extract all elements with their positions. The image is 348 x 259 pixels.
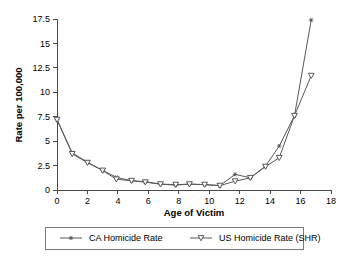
y-tick-label: 2.5 <box>37 161 50 171</box>
x-tick-label: 10 <box>204 196 214 206</box>
x-tick-label: 8 <box>176 196 181 206</box>
legend-label: CA Homicide Rate <box>89 233 163 243</box>
x-tick-label: 2 <box>85 196 90 206</box>
homicide-rate-chart-figure: Rate per 100,000 02.557.51012.51517.5 02… <box>0 0 348 259</box>
y-tick-label: 17.5 <box>32 14 50 24</box>
x-tick-label: 14 <box>265 196 275 206</box>
y-tick-label: 5 <box>45 136 50 146</box>
x-tick-label: 4 <box>115 196 120 206</box>
chart-canvas: Rate per 100,000 02.557.51012.51517.5 02… <box>0 0 348 259</box>
x-tick-label: 12 <box>235 196 245 206</box>
y-axis-title: Rate per 100,000 <box>13 68 24 143</box>
y-tick-label: 15 <box>40 39 50 49</box>
x-tick-label: 0 <box>54 196 59 206</box>
y-tick-label: 12.5 <box>32 63 50 73</box>
chart-background <box>0 0 348 259</box>
y-tick-label: 0 <box>45 185 50 195</box>
chart-legend: CA Homicide RateUS Homicide Rate (SHR) <box>45 227 321 249</box>
y-tick-label: 7.5 <box>37 112 50 122</box>
legend-label: US Homicide Rate (SHR) <box>219 233 321 243</box>
x-tick-label: 6 <box>146 196 151 206</box>
y-tick-label: 10 <box>40 87 50 97</box>
x-tick-label: 16 <box>296 196 306 206</box>
x-tick-label: 18 <box>326 196 336 206</box>
x-axis-title: Age of Victim <box>164 207 225 218</box>
